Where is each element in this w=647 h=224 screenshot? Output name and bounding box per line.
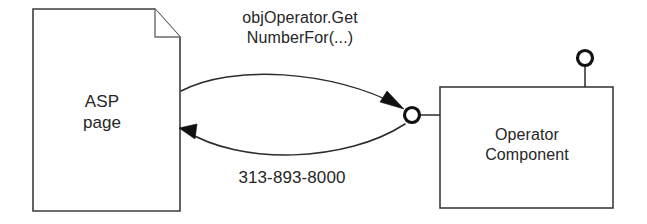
asp-page-label: ASP page [32,92,172,133]
return-message-curve [186,124,405,155]
diagram-canvas: ASP page Operator Component objOperator.… [0,0,647,224]
call-message-arrowhead-icon [380,91,404,109]
operator-component-label: Operator Component [440,125,614,164]
return-message-label: 313-893-8000 [196,168,388,189]
top-provided-interface-lollipop-icon[interactable] [578,51,593,66]
return-message-arrowhead-icon [179,124,197,139]
left-provided-interface-lollipop-icon[interactable] [405,108,420,123]
call-message-label: objOperator.Get NumberFor(...) [202,8,398,47]
call-message-curve [181,74,400,106]
